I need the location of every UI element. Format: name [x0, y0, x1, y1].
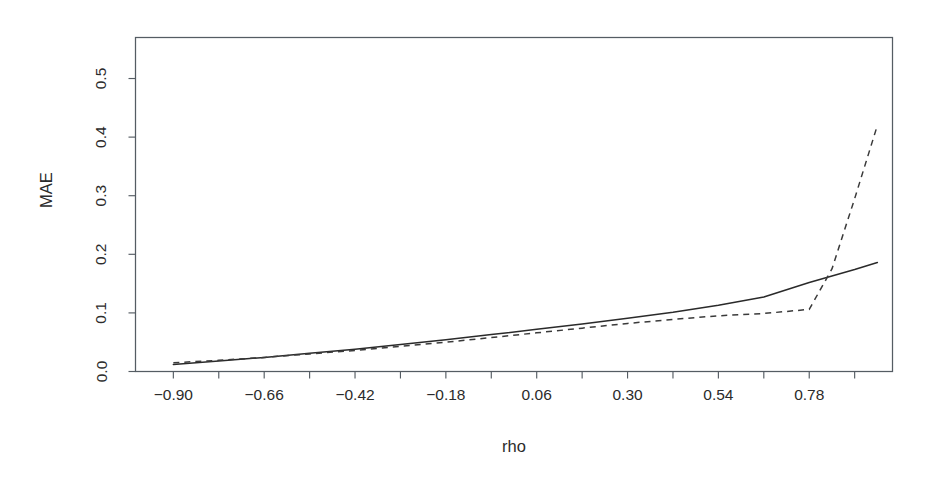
y-tick-label: 0.5 — [93, 68, 110, 90]
series-line-dashed — [173, 125, 877, 362]
x-tick-label: −0.18 — [426, 386, 465, 403]
x-axis-tick-marks — [173, 372, 854, 379]
y-axis-tick-marks — [129, 79, 136, 372]
y-tick-label: 0.4 — [93, 126, 110, 148]
x-tick-label: 0.54 — [703, 386, 734, 403]
chart-canvas: 0.00.10.20.30.40.5 −0.90−0.66−0.42−0.180… — [0, 0, 944, 483]
x-tick-label: 0.06 — [522, 386, 552, 403]
x-tick-label: −0.42 — [335, 386, 374, 403]
y-tick-label: 0.1 — [93, 302, 110, 324]
x-tick-label: −0.66 — [245, 386, 284, 403]
series-line-solid — [173, 263, 877, 365]
y-tick-label: 0.2 — [93, 244, 110, 266]
x-tick-label: 0.78 — [794, 386, 824, 403]
x-axis-title: rho — [502, 437, 526, 455]
x-axis-tick-labels: −0.90−0.66−0.42−0.180.060.300.540.78 — [154, 386, 825, 403]
x-tick-label: 0.30 — [612, 386, 643, 403]
chart-figure: 0.00.10.20.30.40.5 −0.90−0.66−0.42−0.180… — [0, 0, 944, 483]
x-tick-label: −0.90 — [154, 386, 194, 403]
y-axis-title: MAE — [37, 172, 55, 208]
y-tick-label: 0.3 — [93, 185, 110, 207]
y-tick-label: 0.0 — [93, 360, 110, 382]
y-axis-tick-labels: 0.00.10.20.30.40.5 — [93, 68, 110, 383]
plot-frame — [136, 38, 893, 372]
